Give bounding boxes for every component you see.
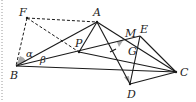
label-beta: β — [39, 54, 46, 65]
label-E: E — [139, 23, 148, 36]
point-A — [96, 21, 98, 23]
label-alpha: α — [26, 48, 33, 59]
label-M: M — [124, 27, 137, 40]
segment-EC — [140, 36, 176, 72]
label-G: G — [128, 45, 137, 58]
segment-FP — [27, 18, 79, 52]
segment-FA — [27, 18, 97, 22]
geometry-diagram: F A B C D E P M G α β — [0, 0, 196, 102]
label-F: F — [18, 6, 27, 19]
segment-DC — [130, 72, 176, 84]
label-D: D — [126, 88, 136, 101]
label-C: C — [180, 66, 189, 79]
point-D — [129, 83, 131, 85]
label-P: P — [74, 37, 83, 50]
segment-BA — [16, 22, 97, 66]
point-C — [175, 71, 177, 73]
point-P — [78, 51, 80, 53]
label-A: A — [92, 6, 101, 19]
label-B: B — [9, 69, 18, 82]
